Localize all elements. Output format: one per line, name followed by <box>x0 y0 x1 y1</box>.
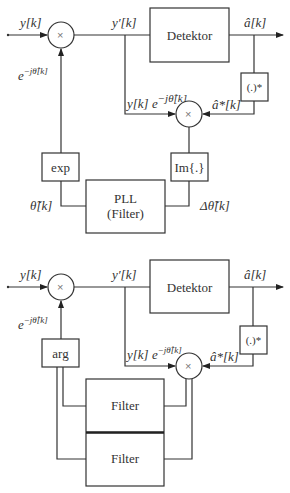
exp-label: exp <box>51 160 70 175</box>
pll-label-line2: (Filter) <box>107 206 144 221</box>
filter1-label: Filter <box>111 398 140 413</box>
diagram-bottom: y[k] × y′[k] Detektor â[k] (.)* â*[k] y[… <box>7 260 283 486</box>
multiplier-symbol: × <box>185 108 191 120</box>
output-label: â[k] <box>244 267 266 282</box>
rotated-label: y′[k] <box>110 15 137 30</box>
rotated-label: y′[k] <box>110 267 137 282</box>
conj-output-label: â*[k] <box>212 97 241 112</box>
multiplier-symbol: × <box>57 281 63 293</box>
block-diagram: y[k] × y′[k] Detektor â[k] (.)* â*[k] y[… <box>0 0 290 493</box>
conj-output-label: â*[k] <box>210 349 239 364</box>
input-label: y[k] <box>18 15 42 30</box>
arg-label: arg <box>52 346 69 361</box>
multiplier-symbol: × <box>57 29 63 41</box>
multiplier-symbol: × <box>185 360 191 372</box>
filter1-to-arg-line <box>63 367 86 406</box>
conj-label: (.)* <box>246 334 262 347</box>
input-label: y[k] <box>18 267 42 282</box>
theta-label: θ̃[k] <box>30 198 52 213</box>
delta-theta-label: Δθ̃[k] <box>199 198 230 213</box>
phasor-label: e−jθ̂[k] <box>18 315 48 332</box>
conj-label: (.)* <box>247 81 263 94</box>
diagram-top: y[k] × y′[k] Detektor â[k] (.)* â*[k] y[… <box>7 8 283 233</box>
detector-label: Detektor <box>167 28 213 43</box>
detector-label: Detektor <box>167 280 213 295</box>
im-to-pll-line <box>165 181 189 206</box>
im-label: Im{.} <box>174 160 204 175</box>
filter2-to-arg-line <box>57 367 86 459</box>
mult2-to-filter1-line <box>164 379 186 406</box>
filter2-label: Filter <box>111 451 140 466</box>
pll-to-exp-line <box>61 181 86 206</box>
pll-label-line1: PLL <box>114 191 137 206</box>
product-label: y[k] e−jθ̂[k] <box>125 345 182 362</box>
output-label: â[k] <box>244 15 266 30</box>
phasor-label: e−jθ̂[k] <box>18 66 48 83</box>
mult2-to-filter2-line <box>164 379 192 459</box>
